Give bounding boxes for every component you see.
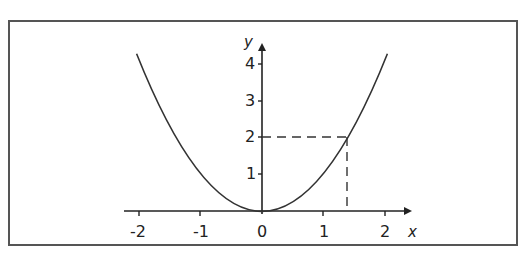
x-tick-label: -1 bbox=[193, 222, 209, 241]
y-axis-label: y bbox=[244, 33, 253, 51]
y-tick-label: 3 bbox=[245, 91, 255, 110]
x-axis-label: x bbox=[408, 223, 417, 241]
y-tick-label: 4 bbox=[245, 54, 255, 73]
x-axis-arrow-icon bbox=[404, 207, 412, 215]
x-tick-label: 2 bbox=[380, 222, 390, 241]
dashed-guides bbox=[262, 137, 347, 211]
y-tick-label: 2 bbox=[245, 127, 255, 146]
y-axis-arrow-icon bbox=[258, 43, 266, 51]
x-tick-label: 1 bbox=[319, 222, 329, 241]
x-tick-label: -2 bbox=[130, 222, 146, 241]
y-tick-label: 1 bbox=[246, 164, 256, 183]
x-tick-label: 0 bbox=[257, 222, 267, 241]
